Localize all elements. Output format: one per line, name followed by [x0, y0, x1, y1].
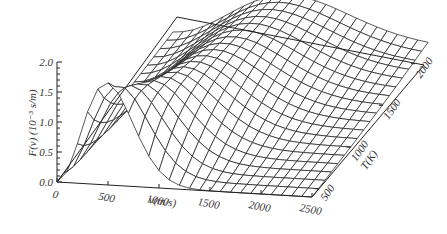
v-tick-label: 500: [98, 190, 117, 205]
z-tick-label: 0.0: [39, 176, 53, 188]
z-axis-title: F(v) (10⁻³ s/m): [26, 89, 39, 157]
v-tick-label: 2500: [299, 201, 323, 217]
z-tick-label: 1.0: [39, 116, 53, 128]
v-tick-label: 1500: [197, 195, 221, 211]
v-tick-label: 0: [52, 188, 60, 201]
z-tick-label: 0.5: [39, 146, 53, 158]
surface-plot: 0.00.51.01.52.00500100015002000250050010…: [0, 0, 447, 234]
z-tick-label: 1.5: [39, 86, 53, 98]
v-tick-label: 2000: [248, 198, 272, 214]
v-axis-title: v(m/s): [148, 193, 177, 210]
z-tick-label: 2.0: [39, 56, 53, 68]
